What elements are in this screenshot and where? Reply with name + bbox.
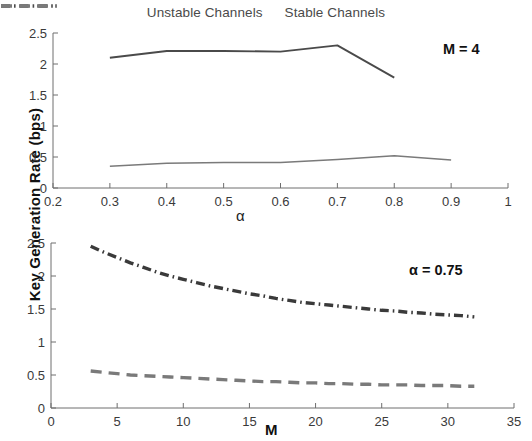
y-tick-label: 0 [0, 401, 45, 416]
plot-area [0, 0, 532, 441]
y-tick-label: 1.5 [0, 302, 45, 317]
x-tick-label: 0.2 [44, 194, 62, 209]
series-line-unstable-channels [110, 45, 394, 77]
x-tick-label: 30 [441, 414, 455, 429]
x-tick-label: 0.7 [328, 194, 346, 209]
y-tick-label: 0.5 [0, 368, 45, 383]
x-tick-label: 0.9 [442, 194, 460, 209]
y-tick-label: 1 [0, 335, 45, 350]
x-tick-label: 1 [504, 194, 511, 209]
x-tick-label: 5 [114, 414, 121, 429]
series-line-stable-channels [110, 156, 451, 167]
annotation-bottom-panel: α = 0.75 [409, 262, 463, 278]
x-tick-label: 0.8 [385, 194, 403, 209]
y-tick-label: 0 [0, 181, 47, 196]
series-layer [91, 45, 475, 386]
x-tick-label: 25 [374, 414, 388, 429]
y-tick-label: 0.5 [0, 150, 47, 165]
x-tick-label: 35 [507, 414, 521, 429]
y-tick-label: 1.5 [0, 88, 47, 103]
x-tick-label: 0.4 [158, 194, 176, 209]
y-tick-label: 2.5 [0, 236, 45, 251]
x-tick-label: 0.6 [271, 194, 289, 209]
x-tick-label: 0.3 [101, 194, 119, 209]
x-tick-label: 20 [308, 414, 322, 429]
y-tick-label: 2 [0, 269, 45, 284]
annotation-top-panel: M = 4 [443, 41, 480, 57]
series-line-unstable-channels [91, 246, 475, 317]
y-tick-label: 2.5 [0, 26, 47, 41]
x-tick-label: 15 [242, 414, 256, 429]
x-tick-label: 10 [176, 414, 190, 429]
series-line-stable-channels [91, 371, 475, 386]
figure-canvas: Unstable Channels Stable Channels Key Ge… [0, 0, 532, 441]
axes-layer [51, 33, 514, 408]
x-tick-label: 0.5 [215, 194, 233, 209]
x-tick-label: 0 [47, 414, 54, 429]
x-axis-label-bottom-panel: M [265, 421, 278, 438]
y-tick-label: 2 [0, 57, 47, 72]
y-tick-label: 1 [0, 119, 47, 134]
x-axis-label-top-panel: α [236, 207, 245, 224]
